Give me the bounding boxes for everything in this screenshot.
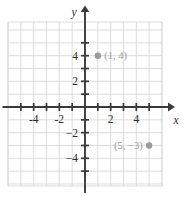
axis-names: xy [70, 6, 179, 126]
x-tick-label: -4 [29, 113, 39, 125]
y-tick-label: −2 [66, 127, 78, 139]
y-axis-arrowhead [81, 6, 90, 13]
y-axis-label: y [70, 6, 77, 19]
y-tick-label: 2 [72, 75, 78, 87]
x-tick-label: 4 [133, 113, 139, 125]
coordinate-plane-figure: -4-22442−2−4 xy (1, 4)(5, −3) [0, 0, 185, 197]
data-point-marker [146, 142, 152, 148]
coordinate-plane-svg: -4-22442−2−4 xy (1, 4)(5, −3) [0, 0, 185, 197]
x-tick-label: 2 [108, 113, 114, 125]
x-axis-label: x [172, 114, 179, 126]
data-point-label: (1, 4) [104, 50, 127, 62]
data-point-label: (5, −3) [114, 140, 143, 152]
y-tick-label: −4 [66, 152, 78, 164]
data-point-marker [95, 52, 101, 58]
x-tick-label: -2 [55, 113, 65, 125]
y-tick-label: 4 [72, 50, 78, 62]
x-axis-arrowhead [168, 103, 175, 112]
